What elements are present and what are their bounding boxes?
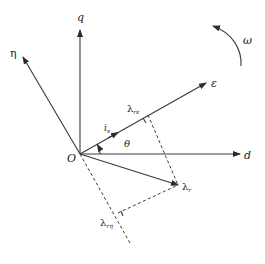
omega-label: ω xyxy=(243,34,252,47)
eta-axis xyxy=(23,57,80,154)
is-label: is xyxy=(104,123,110,134)
projection-to-eta xyxy=(118,185,178,213)
lambda-r-epsilon-label: λrε xyxy=(127,103,139,115)
lambda-r-label: λr xyxy=(182,181,192,193)
right-angle-mark xyxy=(143,118,146,123)
origin-label: O xyxy=(67,152,76,165)
eta-label: η xyxy=(10,47,17,60)
d-label: d xyxy=(244,149,251,162)
vector-diagram: q d η ε O θ ω λr λrε λrη is xyxy=(0,0,265,264)
theta-label: θ xyxy=(124,138,130,149)
lambda-r-eta-label: λrη xyxy=(100,217,113,230)
right-angle-mark xyxy=(121,211,123,216)
omega-rotation-arrow xyxy=(213,26,241,66)
projection-to-epsilon xyxy=(148,115,178,185)
epsilon-label: ε xyxy=(211,77,217,90)
q-label: q xyxy=(77,11,84,24)
theta-arc xyxy=(98,145,101,155)
